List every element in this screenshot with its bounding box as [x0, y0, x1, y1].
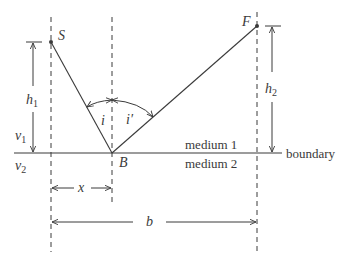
- source-label: S: [58, 28, 65, 43]
- medium-1-label: medium 1: [185, 137, 237, 152]
- b-distance-label: b: [146, 214, 153, 229]
- medium-2-label: medium 2: [185, 156, 237, 171]
- angle-i-label: i: [101, 113, 105, 128]
- h2-label: h2: [265, 81, 277, 98]
- boundary-label: boundary: [286, 146, 336, 161]
- angle-i-prime-label: i′: [126, 112, 134, 127]
- h1-label: h1: [26, 92, 38, 109]
- finish-point: [255, 24, 259, 28]
- angle-i-arc: [87, 100, 112, 107]
- v1-label: v1: [15, 128, 26, 145]
- source-point: [49, 40, 53, 44]
- finish-label: F: [241, 14, 251, 29]
- reflected-ray: [112, 26, 257, 153]
- incident-ray: [51, 42, 112, 153]
- v2-label: v2: [15, 158, 26, 175]
- x-distance-label: x: [77, 180, 85, 195]
- reflection-diagram: S F B i i′ h1 h2 v1 v2 medium 1 medium 2…: [0, 0, 349, 267]
- bounce-label: B: [119, 155, 128, 170]
